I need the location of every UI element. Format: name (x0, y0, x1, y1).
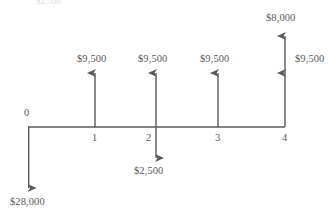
amount-label-outflow-2: $2,500 (134, 166, 163, 177)
amount-label-inflow-3: $9,500 (200, 54, 229, 65)
period-label-4: 4 (282, 133, 287, 144)
amount-label-salvage-4: $8,000 (266, 13, 295, 24)
clipped-top-text: $2,500 (36, 0, 61, 6)
timeline-graphics (0, 0, 336, 220)
period-label-0: 0 (24, 108, 29, 119)
amount-label-inflow-2: $9,500 (138, 54, 167, 65)
period-label-3: 3 (215, 133, 220, 144)
amount-label-inflow-4: $9,500 (295, 54, 324, 65)
amount-label-inflow-1: $9,500 (77, 54, 106, 65)
period-label-1: 1 (92, 133, 97, 144)
cash-flow-diagram: $2,500 0 1 2 3 4 (0, 0, 336, 220)
amount-label-initial-investment: $28,000 (10, 197, 45, 208)
period-label-2: 2 (146, 133, 151, 144)
